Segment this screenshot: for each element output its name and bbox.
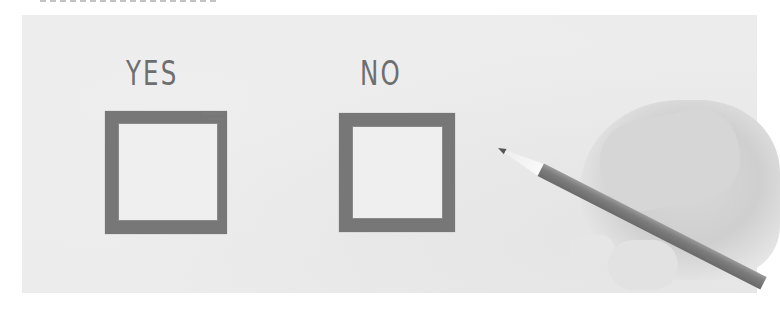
no-checkbox[interactable] (339, 113, 455, 232)
yes-label: YES (126, 53, 178, 93)
cropped-caption (40, 0, 220, 5)
yes-checkbox[interactable] (105, 111, 227, 234)
no-label: NO (360, 53, 402, 93)
brush-stroke-tail (208, 118, 224, 120)
hand-finger (608, 240, 678, 290)
brush-stroke-tail (202, 112, 224, 115)
cropped-text-sliver (40, 0, 220, 2)
